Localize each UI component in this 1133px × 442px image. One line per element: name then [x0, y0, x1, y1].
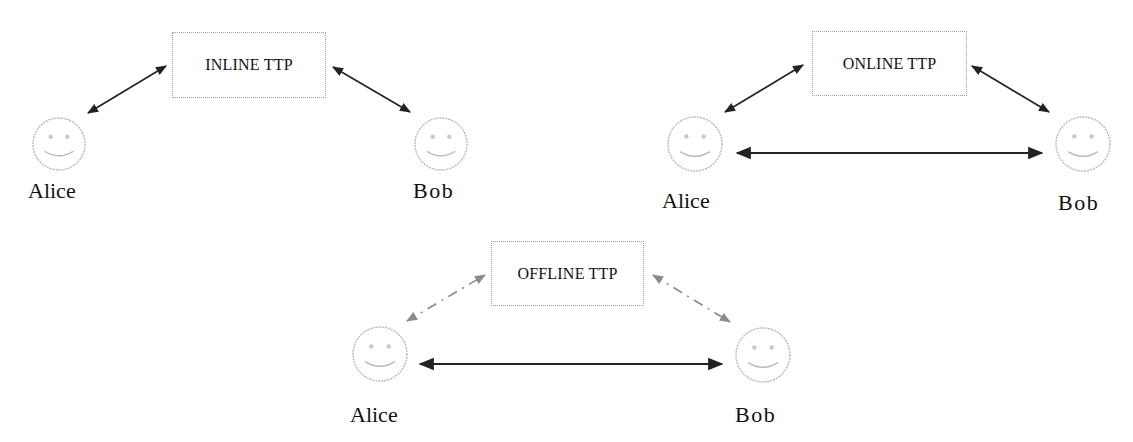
offline-link-0-arrow-icon [407, 275, 485, 321]
inline-alice-label: Alice [28, 180, 76, 202]
online-bob-label: Bob [1058, 192, 1099, 214]
offline-ttp-box: OFFLINE TTP [491, 241, 644, 306]
offline-ttp-label: OFFLINE TTP [517, 265, 617, 283]
online-alice-smiley-icon [668, 117, 722, 171]
online-ttp-box: ONLINE TTP [812, 31, 967, 96]
offline-alice-label: Alice [350, 404, 398, 426]
online-bob-smiley-icon [1056, 117, 1110, 171]
inline-bob-smiley-icon [415, 118, 467, 170]
inline-link-1-arrow-icon [333, 67, 410, 112]
offline-bob-label: Bob [735, 404, 776, 426]
offline-link-1-arrow-icon [653, 275, 730, 322]
online-alice-label: Alice [662, 190, 710, 212]
inline-ttp-box: INLINE TTP [172, 32, 326, 98]
inline-bob-label: Bob [413, 180, 454, 202]
ttp-diagram: INLINE TTP Alice Bob ONLINE TTP Alice Bo… [0, 0, 1133, 442]
online-ttp-label: ONLINE TTP [843, 55, 937, 73]
online-link-1-arrow-icon [972, 66, 1049, 112]
offline-alice-smiley-icon [353, 327, 407, 381]
offline-bob-smiley-icon [736, 328, 790, 382]
inline-ttp-label: INLINE TTP [205, 56, 292, 74]
inline-link-0-arrow-icon [88, 66, 166, 113]
inline-alice-smiley-icon [33, 118, 85, 170]
online-link-0-arrow-icon [725, 65, 803, 112]
